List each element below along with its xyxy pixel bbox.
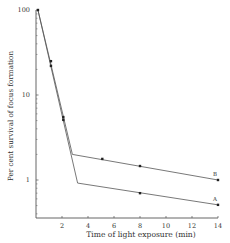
data-point-initial (62, 119, 64, 121)
series-line-b (38, 10, 218, 180)
y-axis-label: Per cent survival of focus formation (6, 46, 18, 186)
data-point-initial (62, 116, 64, 118)
data-point-initial (37, 9, 39, 11)
x-tick-label: 10 (162, 222, 170, 230)
chart-plot-area: 2468101214110100BA (0, 0, 230, 243)
data-point-a (139, 192, 141, 194)
series-label-b: B (213, 171, 217, 177)
x-tick-label: 2 (60, 222, 64, 230)
data-point-initial (50, 60, 52, 62)
x-tick-label: 4 (86, 222, 90, 230)
data-point-b (139, 165, 141, 167)
data-point-b (101, 158, 103, 160)
data-point-b (217, 179, 219, 181)
x-tick-label: 12 (188, 222, 196, 230)
x-tick-label: 8 (138, 222, 142, 230)
x-tick-label: 14 (214, 222, 222, 230)
x-tick-label: 6 (112, 222, 116, 230)
y-tick-label: 1 (26, 176, 30, 184)
data-point-initial (50, 65, 52, 67)
y-tick-label: 10 (22, 91, 30, 99)
x-axis-label: Time of light exposure (min) (66, 230, 216, 239)
survival-chart: 2468101214110100BA Per cent survival of … (0, 0, 230, 243)
data-point-a (217, 204, 219, 206)
y-tick-label: 100 (18, 6, 30, 14)
series-label-a: A (212, 196, 218, 202)
